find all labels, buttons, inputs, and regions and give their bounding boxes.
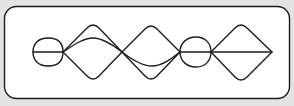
- diagram-canvas: [0, 0, 294, 106]
- curve-diagram: [0, 0, 294, 106]
